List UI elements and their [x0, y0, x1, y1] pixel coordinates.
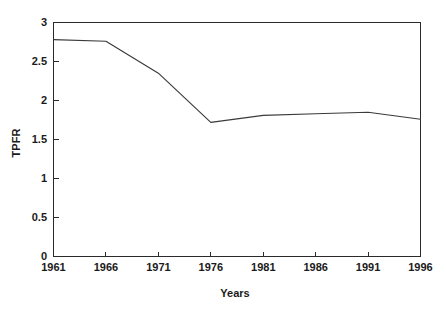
x-tick-label-1966: 1966: [94, 261, 118, 273]
y-axis-ticks: [54, 23, 59, 257]
y-tick-label-2: 2: [41, 94, 47, 106]
y-tick-label-3: 3: [41, 16, 47, 28]
plot-frame: [54, 23, 421, 257]
x-axis-labels: 1961 1966 1971 1976 1981 1986 1991 1996: [41, 261, 432, 273]
x-tick-label-1986: 1986: [303, 261, 327, 273]
x-tick-label-1971: 1971: [146, 261, 170, 273]
line-chart: 0 0.5 1 1.5 2 2.5 3 1961 1966 1971 1976 …: [0, 0, 446, 311]
x-tick-label-1976: 1976: [199, 261, 223, 273]
x-tick-label-1981: 1981: [251, 261, 275, 273]
y-axis-title: TPFR: [10, 129, 22, 158]
y-tick-label-0.5: 0.5: [32, 211, 47, 223]
chart-svg: 0 0.5 1 1.5 2 2.5 3 1961 1966 1971 1976 …: [0, 0, 446, 311]
x-axis-title: Years: [220, 287, 249, 299]
y-tick-label-1.5: 1.5: [32, 133, 47, 145]
x-tick-label-1991: 1991: [356, 261, 380, 273]
y-axis-labels: 0 0.5 1 1.5 2 2.5 3: [32, 16, 47, 262]
x-tick-label-1961: 1961: [41, 261, 65, 273]
y-tick-label-1: 1: [41, 172, 47, 184]
data-series-tpfr: [54, 40, 421, 123]
x-tick-label-1996: 1996: [408, 261, 432, 273]
y-tick-label-2.5: 2.5: [32, 55, 47, 67]
x-axis-ticks: [54, 252, 421, 257]
